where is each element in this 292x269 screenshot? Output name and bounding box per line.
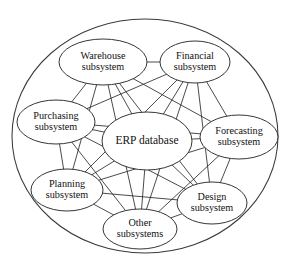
node-label-line2-purchasing: subsystem [35,121,78,132]
connection-line-erp-financial [163,82,183,114]
subsystem-nodes-layer: ERP databaseWarehousesubsystemFinancials… [17,39,278,249]
node-label-line1-warehouse: Warehouse [80,50,125,61]
node-label-forecasting: Forecastingsubsystem [215,125,263,147]
node-label-purchasing: Purchasingsubsystem [33,110,78,132]
erp-diagram-svg: ERP databaseWarehousesubsystemFinancials… [0,0,292,269]
node-label-line1-planning: Planning [49,178,85,189]
node-label-line1-financial: Financial [176,50,214,61]
node-warehouse[interactable]: Warehousesubsystem [59,39,147,85]
node-label-erp: ERP database [115,134,178,146]
node-label-line1-design: Design [198,191,227,202]
node-other[interactable]: Othersubsystems [103,209,177,249]
node-label-line1-purchasing: Purchasing [33,110,78,121]
node-label-line2-design: subsystem [191,202,234,213]
connection-line-planning-other [94,204,114,215]
node-label-financial: Financialsubsystem [174,50,217,72]
connection-line-forecasting-design [220,158,230,182]
node-forecasting[interactable]: Forecastingsubsystem [200,115,278,159]
connection-line-erp-purchasing [93,130,105,132]
node-purchasing[interactable]: Purchasingsubsystem [17,100,95,144]
node-label-line2-planning: subsystem [46,189,89,200]
node-erp[interactable]: ERP database [102,112,192,170]
node-design[interactable]: Designsubsystem [177,182,247,224]
connection-line-erp-planning [92,161,115,175]
node-label-line1-other: Other [128,217,152,228]
connection-line-purchasing-planning [60,144,64,169]
node-label-line1-erp: ERP database [115,134,178,146]
node-label-planning: Planningsubsystem [46,178,89,200]
node-label-line2-financial: subsystem [174,61,217,72]
node-label-line2-forecasting: subsystem [218,136,261,147]
node-label-warehouse: Warehousesubsystem [80,50,125,72]
connection-line-warehouse-purchasing [72,83,87,102]
node-label-line2-other: subsystems [117,228,163,239]
node-financial[interactable]: Financialsubsystem [160,41,230,83]
connection-line-planning-design [103,193,178,200]
connection-line-financial-forecasting [207,82,227,116]
node-label-line1-forecasting: Forecasting [215,125,263,136]
node-planning[interactable]: Planningsubsystem [31,169,103,211]
erp-diagram-canvas: ERP databaseWarehousesubsystemFinancials… [0,0,292,269]
connection-line-design-other [171,214,182,218]
node-label-line2-warehouse: subsystem [82,61,125,72]
connection-line-erp-other [142,170,145,209]
